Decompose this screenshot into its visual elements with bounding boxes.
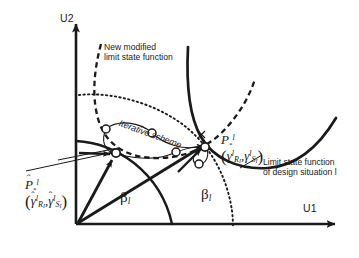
design-point-p-label: P*l (γlRl,γlSl)	[208, 118, 263, 181]
limit-state-function-design-label: Limit state function of design situation…	[263, 158, 337, 177]
beta-subscript: l	[209, 193, 212, 203]
x-axis-label: U1	[303, 203, 317, 215]
design-point-phat-label: Pˆ*l (γˆlRl,γˆlSl)	[12, 163, 67, 226]
y-axis-label: U2	[60, 13, 74, 25]
new-modified-limit-state-label: New modified limit state function	[104, 43, 173, 62]
beta-label: βl	[186, 169, 211, 219]
hat-accent-gamma-r: ˆ	[31, 191, 34, 201]
figure-root: U2 U1 New modified limit state function …	[0, 0, 359, 258]
p-symbol: P	[221, 132, 229, 147]
beta-symbol: β	[201, 186, 209, 202]
design-point-phat-node	[112, 149, 120, 157]
paren-close: )	[62, 192, 68, 211]
hat-accent-gamma-s: ˆ	[49, 191, 52, 201]
iterative-node	[102, 125, 110, 133]
p-superscript: l	[233, 133, 235, 142]
hat-accent-p: ˆ	[27, 174, 30, 184]
beta-symbol: β	[120, 189, 128, 205]
beta-subscript: l	[128, 196, 131, 206]
paren-close: )	[258, 147, 264, 166]
iterative-node	[195, 160, 203, 168]
beta-hat-label: βl	[105, 172, 130, 222]
phat-superscript: l	[37, 178, 39, 187]
